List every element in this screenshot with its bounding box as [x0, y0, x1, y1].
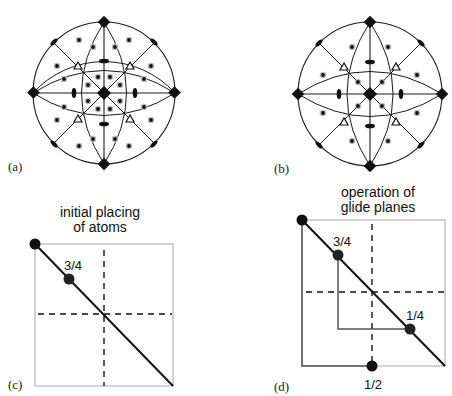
panel-label-d: (d) [274, 379, 289, 395]
caption-d-line2: glide planes [318, 200, 438, 215]
fraction-3-4-c: 3/4 [64, 258, 82, 273]
stereogram-a [27, 16, 181, 171]
unit-cell-c [30, 239, 174, 387]
atom-corner-c [30, 239, 41, 250]
caption-d-line1: operation of [318, 185, 438, 200]
atom-3-4-d [333, 250, 344, 261]
caption-c: initial placing of atoms [40, 205, 160, 235]
figure-stage: (a) (b) (c) (d) initial placing of atoms… [0, 0, 452, 396]
stereogram-b [292, 16, 449, 173]
fraction-1-2-d: 1/2 [364, 377, 382, 392]
panel-label-c: (c) [8, 377, 22, 393]
unit-cell-d [297, 215, 446, 372]
atom-1-2-d [367, 361, 378, 372]
atom-corner-d [297, 215, 308, 226]
panel-label-a: (a) [8, 159, 22, 175]
atom-3-4-c [64, 274, 75, 285]
panel-label-b: (b) [274, 161, 289, 177]
fraction-1-4-d: 1/4 [406, 308, 424, 323]
caption-c-line2: of atoms [40, 220, 160, 235]
atom-1-4-d [405, 324, 416, 335]
caption-c-line1: initial placing [40, 205, 160, 220]
caption-d: operation of glide planes [318, 185, 438, 215]
fraction-3-4-d: 3/4 [333, 234, 351, 249]
